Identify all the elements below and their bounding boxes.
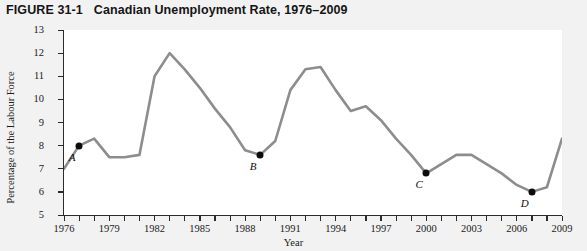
x-axis-tick-mark — [441, 216, 442, 221]
x-axis-tick-mark — [109, 216, 110, 221]
y-axis-tick-label: 11 — [34, 71, 44, 82]
x-axis-tick-label: 2009 — [552, 223, 573, 234]
y-axis-ticks: 1312111098765 — [18, 24, 44, 251]
x-axis-tick-label: 1997 — [370, 223, 391, 234]
x-axis-tick-mark — [199, 216, 200, 221]
x-axis-tick-label: 2003 — [461, 223, 482, 234]
y-axis-label: Percentage of the Labour Force — [2, 52, 18, 222]
x-axis-tick-mark — [380, 216, 381, 221]
y-axis-tick-label: 6 — [39, 187, 44, 198]
series-line — [64, 53, 562, 192]
y-axis-tick-mark — [58, 30, 63, 31]
x-axis-label: Year — [0, 237, 587, 248]
x-axis-tick-mark — [184, 216, 185, 221]
x-axis-tick-mark — [350, 216, 351, 221]
x-axis-tick-mark — [501, 216, 502, 221]
y-axis-tick-label: 10 — [34, 94, 45, 105]
x-axis-tick-label: 1982 — [144, 223, 165, 234]
x-axis-tick-mark — [426, 216, 427, 221]
page-title: Canadian Unemployment Rate, 1976–2009 — [94, 3, 348, 17]
data-point-label-d: D — [521, 198, 529, 209]
data-point-label-a: A — [69, 152, 76, 163]
unemployment-rate-line — [64, 30, 562, 215]
data-point-label-c: C — [416, 179, 423, 190]
y-axis-tick-label: 9 — [39, 117, 44, 128]
x-axis-tick-mark — [531, 216, 532, 221]
data-point-label-b: B — [250, 161, 257, 172]
x-axis-tick-mark — [486, 216, 487, 221]
y-axis-tick-mark — [58, 215, 63, 216]
x-axis-tick-mark — [335, 216, 336, 221]
data-point-marker-a — [76, 142, 83, 149]
y-axis-tick-label: 7 — [39, 164, 44, 175]
x-axis-tick-label: 2006 — [506, 223, 527, 234]
x-axis-tick-mark — [546, 216, 547, 221]
x-axis-tick-mark — [290, 216, 291, 221]
x-axis-tick-label: 1979 — [99, 223, 120, 234]
x-axis-tick-mark — [516, 216, 517, 221]
x-axis-tick-label: 2000 — [416, 223, 437, 234]
x-axis-tick-mark — [411, 216, 412, 221]
data-point-marker-c — [423, 170, 430, 177]
x-axis-tick-mark — [214, 216, 215, 221]
figure-root: FIGURE 31-1 Canadian Unemployment Rate, … — [0, 0, 587, 251]
y-axis-tick-label: 12 — [34, 48, 45, 59]
y-axis-tick-label: 13 — [34, 25, 45, 36]
figure-number: FIGURE 31-1 — [6, 3, 83, 17]
x-axis-tick-mark — [245, 216, 246, 221]
x-axis-tick-label: 1991 — [280, 223, 301, 234]
chart-container: Percentage of the Labour Force 131211109… — [0, 24, 587, 251]
x-axis-tick-mark — [64, 216, 65, 221]
figure-caption: FIGURE 31-1 Canadian Unemployment Rate, … — [6, 3, 348, 17]
x-axis-tick-mark — [305, 216, 306, 221]
x-axis-tick-label: 1976 — [54, 223, 75, 234]
x-axis-tick-mark — [230, 216, 231, 221]
x-axis-tick-mark — [139, 216, 140, 221]
data-point-marker-d — [528, 188, 535, 195]
y-axis-tick-mark — [58, 191, 63, 192]
x-axis-tick-mark — [154, 216, 155, 221]
y-axis-tick-mark — [58, 145, 63, 146]
x-axis-tick-label: 1985 — [189, 223, 210, 234]
y-axis-label-text: Percentage of the Labour Force — [5, 71, 16, 203]
x-axis-tick-mark — [169, 216, 170, 221]
x-axis-tick-mark — [396, 216, 397, 221]
x-axis-tick-mark — [471, 216, 472, 221]
x-axis-tick-label: 1988 — [235, 223, 256, 234]
x-axis-tick-mark — [275, 216, 276, 221]
y-axis-tick-label: 8 — [39, 140, 44, 151]
x-axis-tick-mark — [79, 216, 80, 221]
x-axis-tick-mark — [124, 216, 125, 221]
x-axis-tick-mark — [94, 216, 95, 221]
x-axis-tick-label: 1994 — [325, 223, 346, 234]
y-axis-tick-mark — [58, 76, 63, 77]
x-axis-tick-mark — [562, 216, 563, 221]
x-axis-tick-mark — [260, 216, 261, 221]
y-axis-tick-mark — [58, 122, 63, 123]
y-axis-tick-mark — [58, 168, 63, 169]
data-point-marker-b — [257, 151, 264, 158]
x-axis-tick-mark — [320, 216, 321, 221]
y-axis-tick-label: 5 — [39, 210, 44, 221]
y-axis-tick-mark — [58, 53, 63, 54]
x-axis-tick-mark — [365, 216, 366, 221]
y-axis-tick-mark — [58, 99, 63, 100]
x-axis-tick-mark — [456, 216, 457, 221]
